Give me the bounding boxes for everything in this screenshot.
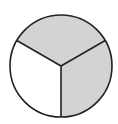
fraction-circle-diagram <box>0 0 118 124</box>
